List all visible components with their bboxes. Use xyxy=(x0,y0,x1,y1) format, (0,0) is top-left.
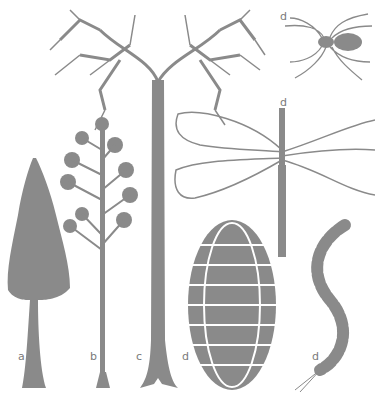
dragonfly xyxy=(175,108,375,257)
label-a: a xyxy=(18,350,25,363)
label-d-arthropod: d xyxy=(182,350,189,363)
spider xyxy=(285,14,372,80)
tree-a xyxy=(8,158,70,388)
label-d-centipede: d xyxy=(312,350,319,363)
tree-b xyxy=(60,117,138,388)
label-b: b xyxy=(90,350,97,363)
arthropleura xyxy=(188,220,277,390)
centipede xyxy=(295,225,345,392)
label-c: c xyxy=(136,350,142,363)
illustration: a b c d d d d xyxy=(0,0,375,395)
label-d-dragonfly: d xyxy=(280,96,287,109)
label-d-spider: d xyxy=(280,10,287,23)
